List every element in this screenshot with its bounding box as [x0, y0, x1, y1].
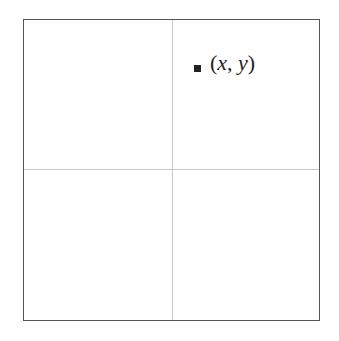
- label-y: y: [238, 50, 248, 75]
- point-label: (x, y): [210, 52, 255, 74]
- horizontal-axis-line: [24, 169, 319, 170]
- label-close-paren: ): [248, 50, 255, 75]
- point-marker: [194, 65, 201, 72]
- label-separator: ,: [227, 50, 238, 75]
- label-x: x: [217, 50, 227, 75]
- vertical-axis-line: [172, 20, 173, 320]
